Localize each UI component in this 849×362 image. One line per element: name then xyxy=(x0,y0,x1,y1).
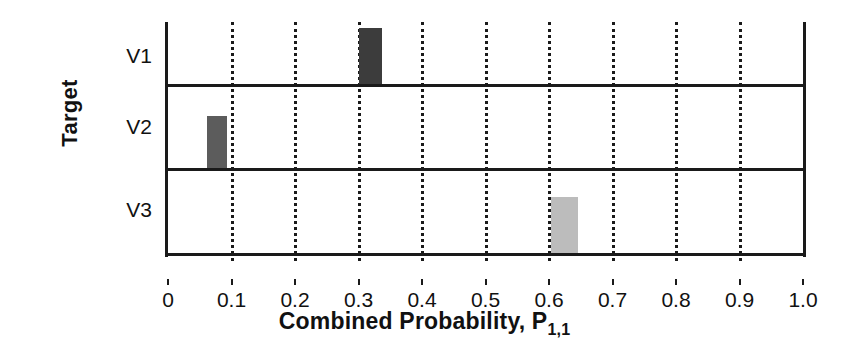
chart-figure: Target V1 V2 V3 00.10.20.30.40.50.60.70.… xyxy=(0,0,849,362)
tick-mark-0.8 xyxy=(675,279,677,285)
x-axis-title: Combined Probability, P1,1 xyxy=(0,308,849,335)
plot-area: 00.10.20.30.40.50.60.70.80.91.0 xyxy=(168,26,803,253)
bar-v2[interactable] xyxy=(207,116,227,168)
tick-mark-0.5 xyxy=(485,279,487,285)
x-axis-line xyxy=(165,253,806,256)
category-label-v2: V2 xyxy=(88,115,152,139)
panel-v3 xyxy=(168,168,803,253)
panel-divider-1 xyxy=(165,84,806,87)
category-label-v3: V3 xyxy=(88,198,152,222)
tick-mark-0 xyxy=(167,279,169,285)
tick-mark-0.2 xyxy=(294,279,296,285)
bar-v3[interactable] xyxy=(551,197,578,253)
panel-v1 xyxy=(168,26,803,84)
tick-mark-0.3 xyxy=(358,279,360,285)
axis-spine-right xyxy=(803,22,806,257)
tick-mark-0.7 xyxy=(612,279,614,285)
panel-divider-2 xyxy=(165,168,806,171)
tick-mark-0.6 xyxy=(548,279,550,285)
tick-mark-0.4 xyxy=(421,279,423,285)
tick-mark-0.9 xyxy=(739,279,741,285)
tick-mark-0.1 xyxy=(231,279,233,285)
tick-mark-1.0 xyxy=(802,279,804,285)
x-axis-title-subscript: 1,1 xyxy=(547,321,570,338)
axis-spine-left xyxy=(165,22,168,257)
y-axis-title: Target xyxy=(57,53,83,173)
bar-v1[interactable] xyxy=(359,28,382,84)
x-axis-title-main: Combined Probability, P xyxy=(279,308,548,334)
panel-v2 xyxy=(168,84,803,168)
category-label-v1: V1 xyxy=(88,44,152,68)
